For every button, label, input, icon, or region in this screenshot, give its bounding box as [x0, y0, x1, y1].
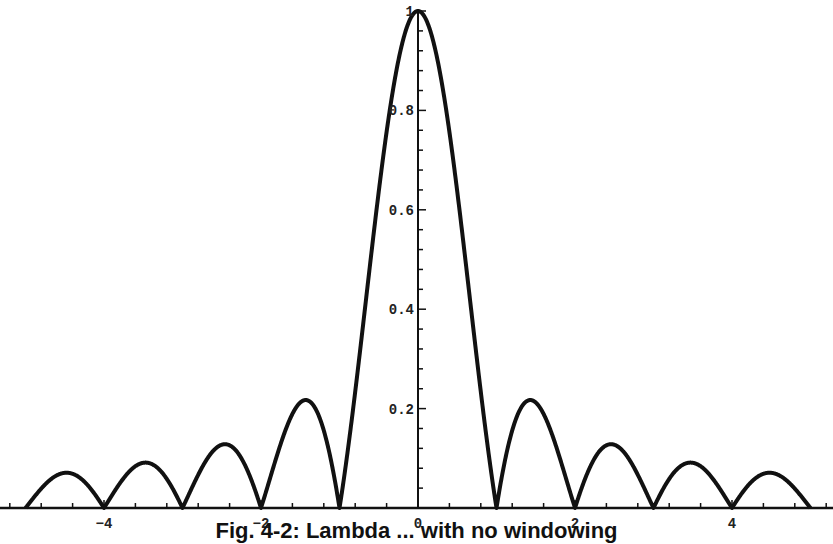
- y-tick-label: 1: [406, 4, 414, 20]
- figure-caption: Fig. 4-2: Lambda ... with no windowing: [0, 518, 833, 544]
- y-tick-label: 0.8: [389, 103, 414, 119]
- tick-labels: −4−20240.20.40.60.81: [96, 4, 737, 532]
- y-tick-label: 0.4: [389, 302, 414, 318]
- y-tick-label: 0.2: [389, 402, 414, 418]
- axes: [0, 11, 833, 508]
- y-tick-label: 0.6: [389, 203, 414, 219]
